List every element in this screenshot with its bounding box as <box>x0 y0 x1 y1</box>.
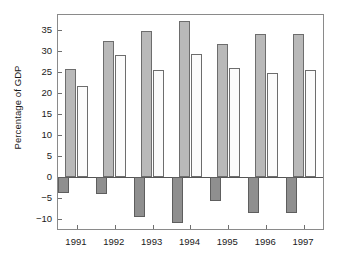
bar-1995-white <box>229 68 240 176</box>
bar-1992-shaded <box>103 41 114 177</box>
x-tick-mark <box>77 225 78 229</box>
x-axis-tick-1992: 1992 <box>103 236 124 247</box>
y-axis-tick-25: 25 <box>11 65 57 76</box>
bar-1994-shaded <box>179 21 190 176</box>
bar-1993-shaded <box>141 31 152 177</box>
y-tick-mark <box>58 30 62 31</box>
bar-1997-negative <box>286 177 297 214</box>
y-axis-tick-30: 30 <box>11 44 57 55</box>
y-tick-mark <box>58 72 62 73</box>
bar-1995-negative <box>210 177 221 201</box>
bar-1991-shaded <box>65 69 76 177</box>
x-tick-mark <box>115 225 116 229</box>
y-axis-tick--5: −5 <box>11 191 57 202</box>
x-axis-tick-1996: 1996 <box>255 236 276 247</box>
bar-1994-white <box>191 54 202 177</box>
y-axis-tick-labels: −10−505101520253035 <box>0 14 57 230</box>
bar-1996-negative <box>248 177 259 214</box>
bar-1995-shaded <box>217 44 228 176</box>
bar-1991-negative <box>58 177 69 193</box>
bar-1997-shaded <box>293 34 304 176</box>
bar-1997-white <box>305 70 316 176</box>
y-axis-tick-15: 15 <box>11 107 57 118</box>
plot-frame <box>57 14 324 230</box>
bar-1991-white <box>77 86 88 176</box>
y-axis-tick-5: 5 <box>11 149 57 160</box>
x-axis-tick-1997: 1997 <box>292 236 313 247</box>
y-tick-mark <box>58 219 62 220</box>
y-tick-mark <box>58 93 62 94</box>
x-axis-tick-1995: 1995 <box>217 236 238 247</box>
y-tick-mark <box>58 114 62 115</box>
y-tick-mark <box>58 156 62 157</box>
bar-1993-negative <box>134 177 145 217</box>
y-tick-mark <box>58 135 62 136</box>
x-tick-mark <box>190 225 191 229</box>
bar-1992-white <box>115 55 126 177</box>
y-tick-mark <box>58 198 62 199</box>
x-tick-mark <box>153 225 154 229</box>
y-axis-tick-20: 20 <box>11 86 57 97</box>
y-axis-tick-35: 35 <box>11 23 57 34</box>
x-tick-mark <box>304 225 305 229</box>
bar-1996-shaded <box>255 34 266 176</box>
plot-area <box>58 15 323 229</box>
x-axis-tick-1993: 1993 <box>141 236 162 247</box>
bar-1993-white <box>153 70 164 176</box>
x-axis-tick-1994: 1994 <box>179 236 200 247</box>
bar-1992-negative <box>96 177 107 195</box>
x-axis-tick-1991: 1991 <box>65 236 86 247</box>
y-tick-mark <box>58 51 62 52</box>
bar-1994-negative <box>172 177 183 223</box>
y-axis-tick-0: 0 <box>11 170 57 181</box>
bar-chart-figure: Percentage of GDP −10−505101520253035 19… <box>0 0 342 261</box>
x-tick-mark <box>266 225 267 229</box>
bar-1996-white <box>267 73 278 176</box>
y-axis-tick--10: −10 <box>11 212 57 223</box>
y-axis-tick-10: 10 <box>11 128 57 139</box>
x-tick-mark <box>228 225 229 229</box>
